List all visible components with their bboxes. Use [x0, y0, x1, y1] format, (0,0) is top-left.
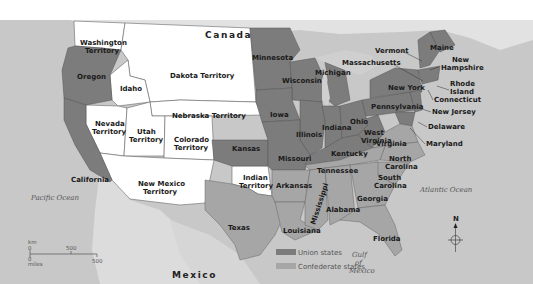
- label-nevada-2: Territory: [92, 128, 127, 136]
- label-new-york: New York: [388, 84, 425, 92]
- label-new-hampshire-1: New: [452, 56, 470, 64]
- legend-confederate-swatch: [276, 263, 296, 269]
- label-rhode-island-2: Island: [450, 88, 474, 96]
- label-indian-2: Territory: [239, 182, 274, 190]
- label-connecticut: Connecticut: [434, 96, 482, 104]
- label-arkansas: Arkansas: [276, 182, 312, 190]
- label-idaho: Idaho: [120, 85, 142, 93]
- legend-union-swatch: [276, 249, 296, 255]
- label-minnesota: Minnesota: [252, 54, 293, 62]
- label-texas: Texas: [228, 224, 250, 232]
- label-dakota: Dakota Territory: [170, 72, 235, 80]
- label-atlantic-ocean: Atlantic Ocean: [419, 186, 473, 194]
- label-west-virginia-1: West: [364, 129, 384, 137]
- label-indian-1: Indian: [243, 174, 268, 182]
- label-wisconsin: Wisconsin: [282, 77, 322, 85]
- label-iowa: Iowa: [270, 111, 289, 119]
- label-new-mexico-1: New Mexico: [138, 180, 185, 188]
- label-vermont: Vermont: [375, 47, 409, 55]
- label-alabama: Alabama: [326, 206, 361, 214]
- label-louisiana: Louisiana: [283, 227, 321, 235]
- label-nebraska: Nebraska Territory: [172, 112, 246, 120]
- label-north-carolina-1: North: [389, 155, 411, 163]
- label-rhode-island-1: Rhode: [450, 80, 475, 88]
- kansas-state: [212, 140, 268, 166]
- label-indiana: Indiana: [322, 124, 352, 132]
- label-utah-1: Utah: [137, 128, 156, 136]
- label-kansas: Kansas: [232, 145, 260, 153]
- label-new-mexico-2: Territory: [143, 188, 178, 196]
- label-south-carolina-1: South: [378, 174, 401, 182]
- label-washington-2: Territory: [85, 47, 120, 55]
- label-pennsylvania: Pennsylvania: [371, 103, 424, 111]
- label-new-hampshire-2: Hampshire: [441, 64, 484, 72]
- label-gulf-1: Gulf: [352, 251, 368, 259]
- civil-war-map: Canada Mexico Pacific Ocean Atlantic Oce…: [0, 20, 533, 284]
- label-colorado-2: Territory: [174, 144, 209, 152]
- label-ohio: Ohio: [350, 118, 368, 126]
- legend-union-label: Union states: [298, 249, 342, 257]
- label-missouri: Missouri: [278, 155, 311, 163]
- label-canada: Canada: [205, 30, 252, 40]
- label-georgia: Georgia: [357, 195, 388, 203]
- label-illinois: Illinois: [296, 131, 322, 139]
- label-maine: Maine: [430, 44, 454, 52]
- label-pacific-ocean: Pacific Ocean: [30, 194, 80, 202]
- legend-confederate-label: Confederate states: [298, 263, 365, 271]
- compass-north-label: N: [453, 215, 459, 223]
- label-tennessee: Tennessee: [317, 167, 358, 175]
- label-michigan: Michigan: [315, 69, 351, 77]
- label-washington-1: Washington: [80, 39, 127, 47]
- label-delaware: Delaware: [428, 123, 465, 131]
- label-oregon: Oregon: [77, 73, 106, 81]
- scale-miles-value: 500: [92, 258, 103, 264]
- label-new-jersey: New Jersey: [432, 108, 476, 116]
- label-south-carolina-2: Carolina: [374, 182, 407, 190]
- label-maryland: Maryland: [426, 140, 463, 148]
- label-nevada-1: Nevada: [95, 120, 125, 128]
- label-florida: Florida: [373, 235, 401, 243]
- scale-miles-label: miles: [28, 261, 43, 267]
- label-california: California: [71, 176, 109, 184]
- label-virginia: Virginia: [376, 140, 407, 148]
- label-massachusetts: Massachusetts: [342, 59, 401, 67]
- scale-km-value: 500: [66, 245, 77, 251]
- label-colorado-1: Colorado: [174, 136, 209, 144]
- label-mexico: Mexico: [172, 270, 217, 280]
- label-utah-2: Territory: [129, 136, 164, 144]
- label-north-carolina-2: Carolina: [385, 163, 418, 171]
- label-kentucky: Kentucky: [331, 150, 368, 158]
